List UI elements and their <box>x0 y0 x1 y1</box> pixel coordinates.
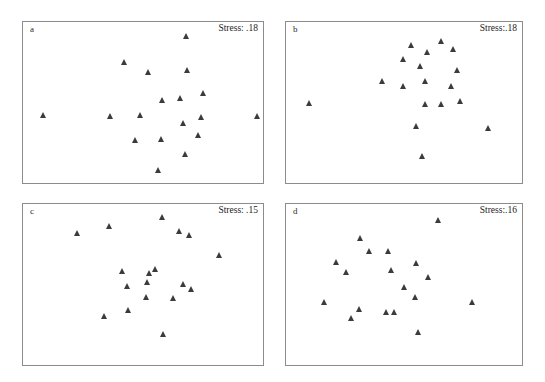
data-point-marker <box>485 125 491 131</box>
data-point-marker <box>435 217 441 223</box>
data-point-marker <box>366 248 372 254</box>
data-point-marker <box>391 309 397 315</box>
data-point-marker <box>357 235 363 241</box>
data-point-marker <box>438 38 444 44</box>
data-point-marker <box>356 306 362 312</box>
data-point-marker <box>198 114 204 120</box>
panel-b-plot-area <box>286 22 522 183</box>
data-point-marker <box>180 120 186 126</box>
data-point-marker <box>383 309 389 315</box>
data-point-marker <box>438 101 444 107</box>
data-point-marker <box>379 78 385 84</box>
data-point-marker <box>176 228 182 234</box>
panel-c: c Stress: .15 <box>22 203 264 366</box>
data-point-marker <box>159 214 165 220</box>
panel-b: b Stress:.18 <box>285 21 523 184</box>
data-point-marker <box>321 299 327 305</box>
data-point-marker <box>400 83 406 89</box>
data-point-marker <box>144 279 150 285</box>
panel-c-plot-area <box>23 204 263 365</box>
data-point-marker <box>408 42 414 48</box>
data-point-marker <box>425 274 431 280</box>
data-point-marker <box>180 281 186 287</box>
data-point-marker <box>195 132 201 138</box>
data-point-marker <box>101 313 107 319</box>
data-point-marker <box>415 329 421 335</box>
panel-d-plot-area <box>286 204 522 365</box>
data-point-marker <box>422 101 428 107</box>
data-point-marker <box>145 69 151 75</box>
data-point-marker <box>388 267 394 273</box>
data-point-marker <box>306 100 312 106</box>
data-point-marker <box>413 123 419 129</box>
data-point-marker <box>333 259 339 265</box>
data-point-marker <box>216 252 222 258</box>
data-point-marker <box>132 137 138 143</box>
data-point-marker <box>121 59 127 65</box>
data-point-marker <box>469 299 475 305</box>
data-point-marker <box>159 97 165 103</box>
data-point-marker <box>424 49 430 55</box>
data-point-marker <box>186 232 192 238</box>
data-point-marker <box>143 294 149 300</box>
data-point-marker <box>422 78 428 84</box>
data-point-marker <box>450 46 456 52</box>
data-point-marker <box>160 331 166 337</box>
data-point-marker <box>348 315 354 321</box>
data-point-marker <box>107 113 113 119</box>
data-point-marker <box>182 151 188 157</box>
data-point-marker <box>155 167 161 173</box>
figure-canvas: a Stress: .18 b Stress:.18 c Stress: .15… <box>0 0 545 382</box>
data-point-marker <box>170 295 176 301</box>
data-point-marker <box>385 248 391 254</box>
data-point-marker <box>106 223 112 229</box>
data-point-marker <box>74 230 80 236</box>
data-point-marker <box>188 286 194 292</box>
data-point-marker <box>401 284 407 290</box>
data-point-marker <box>454 67 460 73</box>
data-point-marker <box>152 266 158 272</box>
panel-a: a Stress: .18 <box>22 21 264 184</box>
data-point-marker <box>183 33 189 39</box>
data-point-marker <box>137 112 143 118</box>
data-point-marker <box>448 83 454 89</box>
data-point-marker <box>400 56 406 62</box>
panel-a-plot-area <box>23 22 263 183</box>
data-point-marker <box>124 283 130 289</box>
data-point-marker <box>417 63 423 69</box>
data-point-marker <box>200 90 206 96</box>
data-point-marker <box>184 67 190 73</box>
data-point-marker <box>40 112 46 118</box>
data-point-marker <box>254 113 260 119</box>
data-point-marker <box>419 153 425 159</box>
panel-d: d Stress:.16 <box>285 203 523 366</box>
data-point-marker <box>158 136 164 142</box>
data-point-marker <box>412 294 418 300</box>
data-point-marker <box>177 95 183 101</box>
data-point-marker <box>457 98 463 104</box>
data-point-marker <box>413 260 419 266</box>
data-point-marker <box>125 307 131 313</box>
data-point-marker <box>119 268 125 274</box>
data-point-marker <box>343 269 349 275</box>
